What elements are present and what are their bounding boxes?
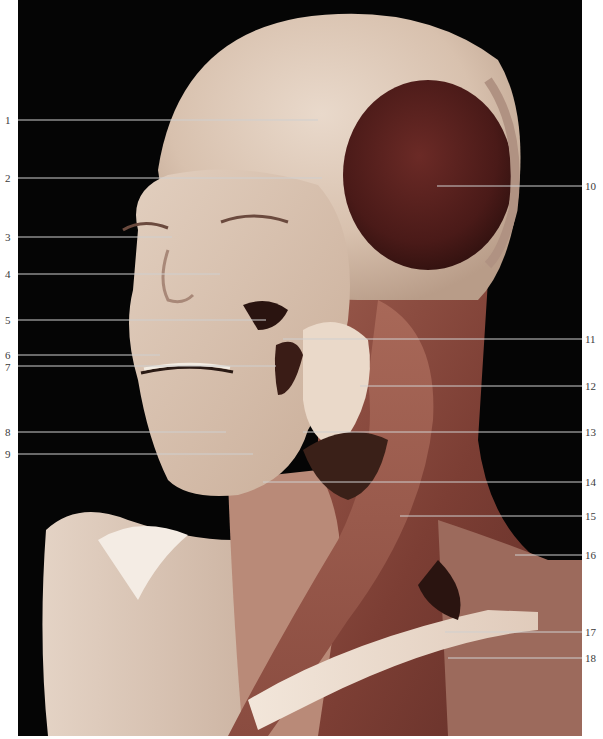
label-13: 13 <box>585 426 603 438</box>
label-10: 10 <box>585 180 603 192</box>
label-18: 18 <box>585 652 603 664</box>
label-17: 17 <box>585 626 603 638</box>
label-7: 7 <box>5 361 15 373</box>
label-3: 3 <box>5 231 15 243</box>
label-8: 8 <box>5 426 15 438</box>
label-9: 9 <box>5 448 15 460</box>
label-16: 16 <box>585 549 603 561</box>
dissection-illustration <box>18 0 582 736</box>
label-11: 11 <box>585 333 603 345</box>
label-14: 14 <box>585 476 603 488</box>
label-4: 4 <box>5 268 15 280</box>
temporalis-muscle <box>343 80 513 270</box>
label-6: 6 <box>5 349 15 361</box>
dissection-photo <box>18 0 582 736</box>
label-2: 2 <box>5 172 15 184</box>
anatomy-figure: 1 2 3 4 5 6 7 8 9 10 11 12 13 14 15 16 1… <box>0 0 603 739</box>
label-1: 1 <box>5 114 15 126</box>
label-5: 5 <box>5 314 15 326</box>
label-12: 12 <box>585 380 603 392</box>
label-15: 15 <box>585 510 603 522</box>
